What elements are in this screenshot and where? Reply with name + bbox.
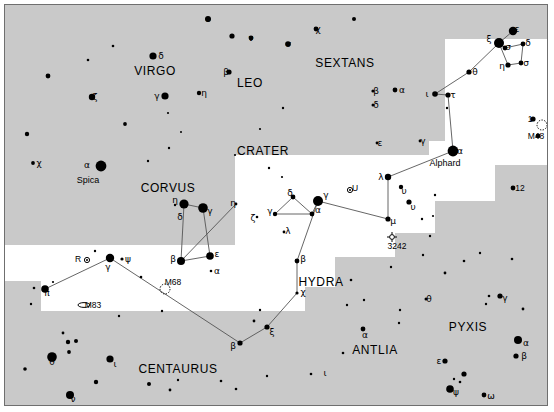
dso-symbol-R bbox=[84, 257, 89, 262]
greek-star-label: α bbox=[399, 86, 405, 95]
greek-star-label: π bbox=[44, 289, 49, 298]
greek-star-label: σ bbox=[523, 59, 529, 68]
greek-star-label: ε bbox=[378, 139, 383, 148]
greek-star-label: α bbox=[84, 161, 90, 170]
greek-star-label: β bbox=[521, 352, 527, 361]
greek-star-label: λ bbox=[378, 173, 383, 182]
greek-star-label: ξ bbox=[486, 35, 491, 44]
greek-star-label: β bbox=[230, 342, 236, 351]
greek-star-label: γ bbox=[154, 92, 159, 101]
greek-star-label: δ bbox=[158, 52, 164, 61]
constellation-name: LEO bbox=[237, 77, 263, 89]
dso-label: M48 bbox=[528, 132, 545, 141]
constellation-name: CRATER bbox=[237, 145, 289, 157]
named-star-label: Spica bbox=[77, 176, 100, 185]
greek-star-label: δ bbox=[177, 213, 183, 222]
greek-star-label: ψ bbox=[453, 388, 459, 397]
greek-star-label: ω bbox=[487, 392, 495, 401]
greek-star-label: χ bbox=[315, 25, 320, 34]
numeric-star-label: 12 bbox=[515, 184, 524, 193]
greek-star-label: λ bbox=[285, 227, 290, 236]
greek-star-label: ο bbox=[205, 15, 211, 24]
greek-star-label: α bbox=[457, 147, 463, 156]
greek-star-label: β bbox=[223, 68, 229, 77]
greek-star-label: χ bbox=[300, 288, 305, 297]
greek-star-label: θ bbox=[49, 358, 55, 367]
constellation-name: ANTLIA bbox=[352, 344, 398, 356]
greek-star-label: β bbox=[373, 87, 379, 96]
constellation-name: PYXIS bbox=[449, 321, 487, 333]
greek-star-label: β bbox=[170, 255, 176, 264]
greek-star-label: η bbox=[230, 199, 236, 208]
dso-label: R bbox=[75, 255, 81, 264]
star-chart: VIRGOLEOSEXTANSCRATERCORVUSHYDRAANTLIAPY… bbox=[0, 0, 554, 412]
greek-star-label: ι bbox=[113, 360, 116, 369]
sky-field: VIRGOLEOSEXTANSCRATERCORVUSHYDRAANTLIAPY… bbox=[5, 5, 547, 405]
greek-star-label: ν bbox=[248, 34, 253, 43]
greek-star-label: β bbox=[300, 255, 306, 264]
greek-star-label: γ bbox=[105, 263, 110, 272]
greek-star-label: γ bbox=[502, 294, 507, 303]
greek-star-label: δ bbox=[287, 189, 293, 198]
dso-symbol-M48 bbox=[537, 120, 547, 130]
greek-star-label: ε bbox=[515, 25, 520, 34]
constellation-name: VIRGO bbox=[134, 65, 176, 77]
dso-label: M83 bbox=[85, 301, 102, 310]
greek-star-label: ψ bbox=[125, 255, 131, 264]
greek-star-label: τ bbox=[450, 91, 455, 100]
named-star-label: Alphard bbox=[429, 159, 460, 168]
greek-star-label: ε bbox=[437, 357, 442, 366]
dso-label: U bbox=[352, 184, 358, 193]
greek-star-label: ν bbox=[70, 395, 75, 404]
greek-star-label: γ bbox=[207, 207, 212, 216]
greek-star-label: ξ bbox=[269, 328, 274, 337]
greek-star-label: χ bbox=[36, 159, 41, 168]
greek-star-label: ζ bbox=[93, 93, 98, 102]
greek-star-label: ι bbox=[323, 369, 326, 378]
greek-star-label: η bbox=[499, 62, 505, 71]
greek-star-label: υ bbox=[410, 203, 415, 212]
constellation-name: SEXTANS bbox=[315, 57, 374, 69]
greek-star-label: θ bbox=[472, 68, 478, 77]
greek-star-label: υ bbox=[401, 187, 406, 196]
greek-star-label: γ bbox=[420, 137, 425, 146]
greek-star-label: θ bbox=[426, 295, 432, 304]
greek-star-label: δ bbox=[373, 101, 379, 110]
greek-star-label: η bbox=[201, 89, 207, 98]
greek-star-label: ζ bbox=[251, 214, 256, 223]
greek-star-label: α bbox=[523, 339, 529, 348]
greek-star-label: γ bbox=[323, 191, 328, 200]
constellation-name: CORVUS bbox=[141, 182, 196, 194]
greek-star-label: α bbox=[214, 267, 220, 276]
greek-star-label: ι bbox=[425, 90, 428, 99]
greek-star-label: α bbox=[315, 206, 321, 215]
greek-star-label: ε bbox=[215, 250, 220, 259]
constellation-name: CENTAURUS bbox=[138, 363, 217, 375]
numeric-star-label: 1 bbox=[528, 115, 533, 124]
greek-star-label: σ bbox=[505, 43, 511, 52]
greek-star-label: μ bbox=[390, 217, 396, 226]
greek-star-label: δ bbox=[525, 39, 531, 48]
greek-star-label: γ bbox=[267, 207, 272, 216]
greek-star-label: α bbox=[362, 331, 368, 340]
dso-label: M68 bbox=[165, 278, 182, 287]
deep-sky-objects-layer bbox=[5, 5, 547, 405]
chart-frame: VIRGOLEOSEXTANSCRATERCORVUSHYDRAANTLIAPY… bbox=[4, 4, 548, 406]
greek-star-label: σ bbox=[285, 40, 291, 49]
dso-label: 3242 bbox=[388, 242, 407, 251]
greek-star-label: η bbox=[172, 196, 178, 205]
